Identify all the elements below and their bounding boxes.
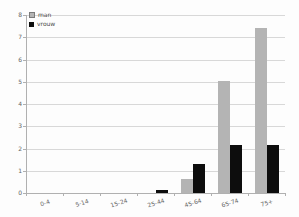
bar-man-65-74 bbox=[218, 81, 230, 193]
y-axis-tick-label: 2 bbox=[10, 146, 22, 152]
gridline bbox=[26, 60, 285, 61]
legend-label-vrouw: vrouw bbox=[37, 21, 55, 27]
x-axis-category-label: 65-74 bbox=[214, 196, 244, 211]
bar-man-75+ bbox=[255, 28, 267, 193]
gridline bbox=[26, 171, 285, 172]
bar-man-45-64 bbox=[181, 179, 193, 193]
bar-vrouw-65-74 bbox=[230, 145, 242, 193]
x-axis bbox=[26, 193, 286, 194]
gridline bbox=[26, 149, 285, 150]
legend-item-man: man bbox=[29, 12, 55, 18]
bar-vrouw-45-64 bbox=[193, 164, 205, 193]
legend-item-vrouw: vrouw bbox=[29, 21, 55, 27]
y-axis-tick-label: 0 bbox=[10, 190, 22, 196]
y-axis-tick-label: 3 bbox=[10, 123, 22, 129]
y-axis-tick-label: 4 bbox=[10, 101, 22, 107]
y-axis-tick-label: 7 bbox=[10, 34, 22, 40]
y-axis-tick-label: 8 bbox=[10, 12, 22, 18]
bar-vrouw-75+ bbox=[267, 145, 279, 193]
gridline bbox=[26, 82, 285, 83]
man-series-swatch-icon bbox=[29, 12, 35, 18]
y-axis-tick-label: 6 bbox=[10, 57, 22, 63]
vrouw-series-swatch-icon bbox=[29, 22, 34, 27]
x-axis-category-label: 75+ bbox=[251, 196, 281, 211]
y-axis-tick-label: 5 bbox=[10, 79, 22, 85]
x-axis-category-label: 15-24 bbox=[103, 196, 133, 211]
gridline bbox=[26, 15, 285, 16]
x-axis-category-label: 0-4 bbox=[29, 196, 59, 211]
x-axis-category-label: 25-44 bbox=[140, 196, 170, 211]
x-axis-category-label: 5-14 bbox=[66, 196, 96, 211]
legend: man vrouw bbox=[29, 12, 55, 27]
gridline bbox=[26, 104, 285, 105]
y-axis-tick-label: 1 bbox=[10, 168, 22, 174]
bar-chart: 0123456780-45-1415-2425-4445-6465-7475+ … bbox=[0, 0, 299, 217]
gridline bbox=[26, 37, 285, 38]
y-axis bbox=[26, 15, 27, 193]
legend-label-man: man bbox=[38, 12, 51, 18]
gridline bbox=[26, 126, 285, 127]
x-axis-category-label: 45-64 bbox=[177, 196, 207, 211]
